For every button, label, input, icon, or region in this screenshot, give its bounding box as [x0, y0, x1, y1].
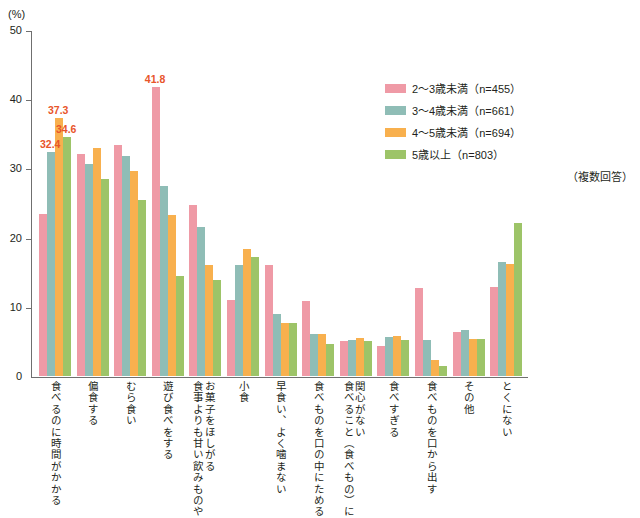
bar[interactable]: [356, 338, 364, 376]
bar[interactable]: [514, 223, 522, 376]
bar[interactable]: [377, 346, 385, 376]
y-axis-unit-label: (%): [8, 8, 25, 20]
legend-color-swatch: [385, 84, 406, 93]
y-axis-tick-mark: [26, 31, 31, 32]
bar-group: [265, 31, 303, 376]
bar[interactable]: [176, 276, 184, 376]
bar-value-label: 41.8: [145, 73, 165, 85]
bar[interactable]: [197, 227, 205, 376]
y-axis-tick-label: 40: [0, 93, 22, 105]
bar[interactable]: [130, 171, 138, 376]
legend-item[interactable]: 4〜5歳未満（n=694）: [385, 124, 635, 140]
bar[interactable]: [77, 154, 85, 376]
x-axis-label: 食べものを口の中にためる: [311, 381, 323, 518]
bar[interactable]: [189, 205, 197, 376]
y-axis-tick-label: 30: [0, 162, 22, 174]
x-axis-label: 偏食する: [86, 381, 98, 427]
bar[interactable]: [469, 339, 477, 376]
legend: 2〜3歳未満（n=455）3〜4歳未満（n=661）4〜5歳未満（n=694）5…: [385, 80, 635, 184]
bar[interactable]: [205, 265, 213, 376]
y-axis-tick-mark: [26, 239, 31, 240]
legend-color-swatch: [385, 106, 406, 115]
bar-group: [39, 31, 77, 376]
x-axis-label-line: 遊び食べをする: [161, 381, 173, 461]
x-axis-label-line: 食べすぎる: [387, 381, 399, 438]
bar[interactable]: [168, 215, 176, 376]
bar[interactable]: [63, 137, 71, 376]
x-axis-label: むら食い: [123, 381, 135, 427]
legend-item[interactable]: 5歳以上（n=803）: [385, 146, 635, 162]
bar[interactable]: [122, 156, 130, 376]
bar[interactable]: [138, 200, 146, 376]
bar[interactable]: [281, 323, 289, 376]
bar-value-label: 37.3: [48, 104, 68, 116]
bar-group: [340, 31, 378, 376]
y-axis-tick-label: 20: [0, 232, 22, 244]
y-axis-tick-mark: [26, 100, 31, 101]
legend-item-label: 5歳以上（n=803）: [412, 146, 504, 162]
x-axis-label: 食べすぎる: [386, 381, 398, 438]
bar[interactable]: [251, 257, 259, 376]
bar-value-label: 34.6: [56, 123, 76, 135]
y-axis-tick-mark: [26, 169, 31, 170]
x-axis-label-line: お菓子をほしがる: [203, 381, 215, 518]
bar[interactable]: [490, 287, 498, 376]
legend-item[interactable]: 2〜3歳未満（n=455）: [385, 80, 635, 96]
bar[interactable]: [55, 118, 63, 376]
bar[interactable]: [227, 300, 235, 376]
bar[interactable]: [385, 337, 393, 376]
bar[interactable]: [318, 334, 326, 376]
bar[interactable]: [310, 334, 318, 376]
legend-color-swatch: [385, 128, 406, 137]
legend-note: （複数回答）: [385, 168, 635, 184]
bar[interactable]: [152, 87, 160, 376]
x-axis-line: [31, 377, 528, 378]
bar[interactable]: [326, 344, 334, 376]
bar[interactable]: [423, 340, 431, 376]
legend-item-label: 3〜4歳未満（n=661）: [412, 102, 521, 118]
bar[interactable]: [85, 164, 93, 376]
x-axis-label-line: むら食い: [124, 381, 136, 427]
x-axis-label: 関心がない食べること（食べもの）に: [341, 381, 365, 518]
x-axis-label-line: 食べものを口から出す: [425, 381, 437, 495]
bar[interactable]: [302, 301, 310, 376]
x-axis-label: 早食い、よく噛まない: [274, 381, 286, 495]
bar[interactable]: [243, 249, 251, 376]
bar[interactable]: [265, 265, 273, 376]
x-axis-label-line: 早食い、よく噛まない: [274, 381, 286, 495]
legend-item[interactable]: 3〜4歳未満（n=661）: [385, 102, 635, 118]
bar[interactable]: [401, 340, 409, 376]
bar[interactable]: [160, 186, 168, 376]
bar[interactable]: [93, 148, 101, 376]
bar[interactable]: [273, 314, 281, 376]
bar-group: [77, 31, 115, 376]
bar[interactable]: [39, 214, 47, 376]
bar[interactable]: [477, 339, 485, 376]
x-axis-label-line: 小食: [237, 381, 249, 404]
bar[interactable]: [340, 341, 348, 376]
bar[interactable]: [439, 366, 447, 376]
bar[interactable]: [213, 280, 221, 376]
bar[interactable]: [235, 265, 243, 376]
x-axis-label-line: 関心がない: [353, 381, 365, 518]
legend-color-swatch: [385, 150, 406, 159]
bar[interactable]: [114, 145, 122, 376]
bar[interactable]: [393, 336, 401, 376]
bar[interactable]: [364, 341, 372, 376]
x-axis-label: 食べるのに時間がかかる: [48, 381, 60, 506]
bar[interactable]: [415, 288, 423, 376]
x-axis-label: 遊び食べをする: [161, 381, 173, 461]
bar[interactable]: [289, 323, 297, 376]
legend-item-label: 2〜3歳未満（n=455）: [412, 80, 521, 96]
bar[interactable]: [453, 332, 461, 376]
bar[interactable]: [431, 360, 439, 376]
y-axis-tick-label: 50: [0, 24, 22, 36]
x-axis-label-line: とくにない: [500, 381, 512, 438]
bar[interactable]: [461, 330, 469, 376]
bar[interactable]: [348, 340, 356, 376]
bar[interactable]: [506, 264, 514, 376]
bar[interactable]: [498, 262, 506, 376]
bar[interactable]: [101, 179, 109, 376]
bar[interactable]: [47, 152, 55, 376]
bar-group: [227, 31, 265, 376]
